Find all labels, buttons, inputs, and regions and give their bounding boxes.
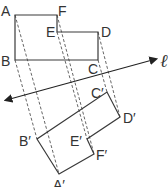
label-c-prime: C′ [91,85,104,101]
label-b-prime: B′ [19,133,31,149]
connector-b [15,60,37,139]
label-a: A [1,3,11,19]
reflection-line [10,59,156,99]
label-f-prime: F′ [96,147,108,163]
label-d-prime: D′ [123,110,136,126]
label-b: B [1,53,10,69]
label-e: E [46,24,55,40]
reflection-diagram: A F E D B C ℓ C′ D′ B′ E′ F′ A′ [0,0,168,187]
label-a-prime: A′ [53,177,65,187]
label-line: ℓ [160,51,168,71]
label-f: F [58,3,67,19]
label-d: D [101,24,111,40]
label-e-prime: E′ [70,133,82,149]
original-polygon [15,15,98,60]
label-c: C [88,61,98,77]
